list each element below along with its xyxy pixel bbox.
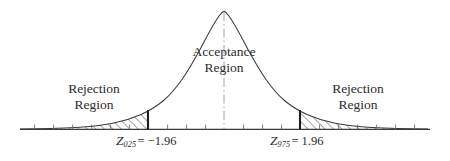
critical-value-left-label: Z025= −1.96 xyxy=(116,133,177,150)
rejection-region-right-label: Rejection Region xyxy=(316,81,400,113)
acceptance-region-label-line2: Region xyxy=(158,60,290,76)
acceptance-region-label: Acceptance Region xyxy=(158,44,290,76)
critical-right-equals: = xyxy=(291,134,298,148)
critical-left-symbol: Z xyxy=(116,133,124,148)
rejection-region-right-label-line2: Region xyxy=(316,97,400,113)
acceptance-region-label-line1: Acceptance xyxy=(158,44,290,60)
critical-value-right-label: Z975= 1.96 xyxy=(270,133,323,150)
critical-right-subscript: 975 xyxy=(278,140,291,149)
axis-ticks xyxy=(35,125,415,130)
critical-left-value: −1.96 xyxy=(148,134,177,148)
rejection-region-left-label-line1: Rejection xyxy=(52,81,136,97)
critical-left-equals: = xyxy=(137,134,144,148)
rejection-region-right-label-line1: Rejection xyxy=(316,81,400,97)
critical-left-subscript: 025 xyxy=(124,140,137,149)
rejection-region-left-label-line2: Region xyxy=(52,97,136,113)
normal-distribution-diagram: Acceptance Region Rejection Region Rejec… xyxy=(0,0,450,161)
critical-right-symbol: Z xyxy=(270,133,278,148)
rejection-region-left-label: Rejection Region xyxy=(52,81,136,113)
critical-right-value: 1.96 xyxy=(302,134,324,148)
